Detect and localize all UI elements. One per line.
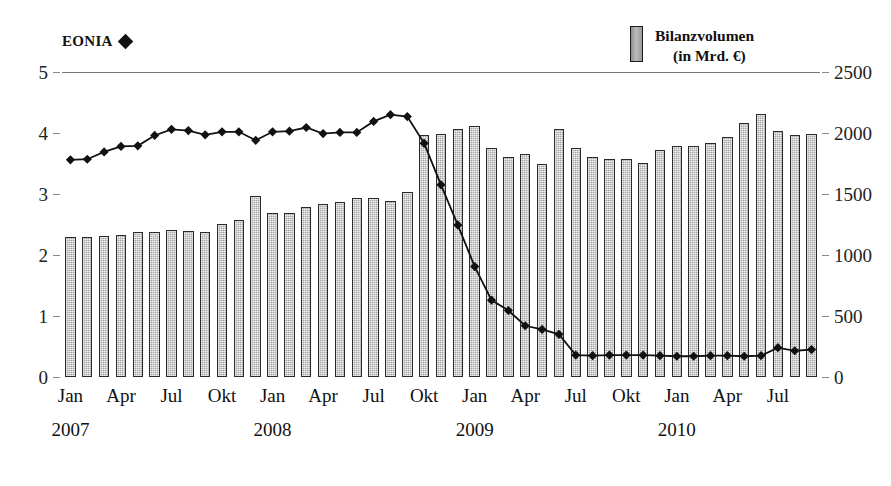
eonia-point-marker bbox=[234, 127, 243, 136]
x-tick-label-month: Jul bbox=[363, 385, 385, 407]
x-tick-label-month: Jul bbox=[160, 385, 182, 407]
eonia-point-marker bbox=[436, 180, 445, 189]
eonia-point-marker bbox=[487, 296, 496, 305]
x-tick-label-month: Apr bbox=[106, 385, 136, 407]
y-tick-label-left: 5 bbox=[39, 63, 49, 82]
eonia-point-marker bbox=[740, 352, 749, 361]
y-tick-label-right: 2500 bbox=[834, 63, 872, 82]
eonia-point-marker bbox=[588, 351, 597, 360]
eonia-point-marker bbox=[605, 350, 614, 359]
eonia-point-marker bbox=[167, 125, 176, 134]
eonia-point-marker bbox=[150, 131, 159, 140]
eonia-point-marker bbox=[386, 110, 395, 119]
eonia-point-marker bbox=[66, 155, 75, 164]
x-tick-label-month: Okt bbox=[612, 385, 641, 407]
x-axis-labels: Jan2007AprJulOktJan2008AprJulOktJan2009A… bbox=[62, 385, 820, 465]
y-tick-label-left: 4 bbox=[39, 124, 49, 143]
x-tick-label-year: 2009 bbox=[456, 419, 494, 441]
eonia-point-marker bbox=[302, 123, 311, 132]
eonia-point-marker bbox=[672, 352, 681, 361]
y-tick-label-right: 1000 bbox=[834, 246, 872, 265]
x-tick-label-year: 2007 bbox=[51, 419, 89, 441]
x-tick-label-year: 2010 bbox=[658, 419, 696, 441]
y-tick-label-right: 2000 bbox=[834, 124, 872, 143]
eonia-point-marker bbox=[453, 221, 462, 230]
y-tick-right bbox=[822, 377, 829, 378]
x-tick-label-month: Jul bbox=[565, 385, 587, 407]
x-tick-label-month: Jan bbox=[58, 385, 83, 407]
y-tick-right bbox=[822, 194, 829, 195]
eonia-point-marker bbox=[251, 136, 260, 145]
y-tick-right bbox=[822, 316, 829, 317]
x-tick-label-month: Okt bbox=[208, 385, 237, 407]
plot-area: 012345 05001000150020002500 bbox=[62, 72, 820, 377]
y-tick-label-right: 1500 bbox=[834, 185, 872, 204]
y-tick-left bbox=[53, 316, 60, 317]
eonia-point-marker bbox=[756, 351, 765, 360]
legend-bilanzvolumen: Bilanzvolumen (in Mrd. €) bbox=[630, 26, 754, 66]
y-tick-label-right: 0 bbox=[834, 368, 844, 387]
y-tick-left bbox=[53, 255, 60, 256]
x-tick-label-month: Jul bbox=[767, 385, 789, 407]
y-tick-right bbox=[822, 72, 829, 73]
x-tick-label-month: Jan bbox=[664, 385, 689, 407]
legend-eonia: EONIA bbox=[62, 33, 131, 50]
y-tick-label-left: 1 bbox=[39, 307, 49, 326]
eonia-point-marker bbox=[285, 127, 294, 136]
y-tick-right bbox=[822, 133, 829, 134]
y-tick-label-left: 0 bbox=[39, 368, 49, 387]
eonia-point-marker bbox=[133, 141, 142, 150]
eonia-point-marker bbox=[335, 128, 344, 137]
x-tick-label-month: Apr bbox=[713, 385, 743, 407]
eonia-point-marker bbox=[723, 351, 732, 360]
y-tick-label-left: 3 bbox=[39, 185, 49, 204]
eonia-point-marker bbox=[116, 142, 125, 151]
y-tick-left bbox=[53, 377, 60, 378]
eonia-point-marker bbox=[217, 127, 226, 136]
eonia-line bbox=[70, 115, 811, 357]
eonia-point-marker bbox=[369, 117, 378, 126]
eonia-point-marker bbox=[639, 350, 648, 359]
x-tick-label-year: 2008 bbox=[254, 419, 292, 441]
diamond-marker-icon bbox=[117, 34, 133, 50]
eonia-point-marker bbox=[352, 128, 361, 137]
eonia-point-marker bbox=[403, 112, 412, 121]
eonia-point-marker bbox=[773, 343, 782, 352]
y-tick-left bbox=[53, 194, 60, 195]
eonia-point-marker bbox=[201, 130, 210, 139]
eonia-point-marker bbox=[706, 351, 715, 360]
x-tick-label-month: Apr bbox=[510, 385, 540, 407]
x-tick-label-month: Jan bbox=[462, 385, 487, 407]
eonia-point-marker bbox=[537, 325, 546, 334]
eonia-point-marker bbox=[807, 345, 816, 354]
eonia-point-marker bbox=[268, 127, 277, 136]
eonia-point-marker bbox=[655, 351, 664, 360]
eonia-point-marker bbox=[318, 129, 327, 138]
legend-eonia-label: EONIA bbox=[62, 33, 113, 50]
legend-bilanzvolumen-line1: Bilanzvolumen bbox=[655, 27, 754, 44]
line-series-eonia bbox=[62, 72, 820, 377]
y-tick-left bbox=[53, 72, 60, 73]
y-tick-left bbox=[53, 133, 60, 134]
chart-figure: EONIA Bilanzvolumen (in Mrd. €) 012345 0… bbox=[0, 0, 891, 486]
eonia-point-marker bbox=[790, 346, 799, 355]
x-tick-label-month: Apr bbox=[308, 385, 338, 407]
bar-swatch-icon bbox=[630, 26, 643, 62]
eonia-point-marker bbox=[100, 147, 109, 156]
x-tick-label-month: Jan bbox=[260, 385, 285, 407]
legend-bilanzvolumen-line2: (in Mrd. €) bbox=[655, 46, 754, 66]
y-tick-label-left: 2 bbox=[39, 246, 49, 265]
eonia-point-marker bbox=[420, 139, 429, 148]
eonia-point-marker bbox=[470, 262, 479, 271]
eonia-point-marker bbox=[83, 155, 92, 164]
y-tick-right bbox=[822, 255, 829, 256]
legend-bilanzvolumen-label: Bilanzvolumen (in Mrd. €) bbox=[655, 26, 754, 66]
eonia-point-marker bbox=[689, 352, 698, 361]
eonia-point-marker bbox=[622, 350, 631, 359]
x-tick-label-month: Okt bbox=[410, 385, 439, 407]
eonia-point-marker bbox=[184, 126, 193, 135]
y-tick-label-right: 500 bbox=[834, 307, 863, 326]
